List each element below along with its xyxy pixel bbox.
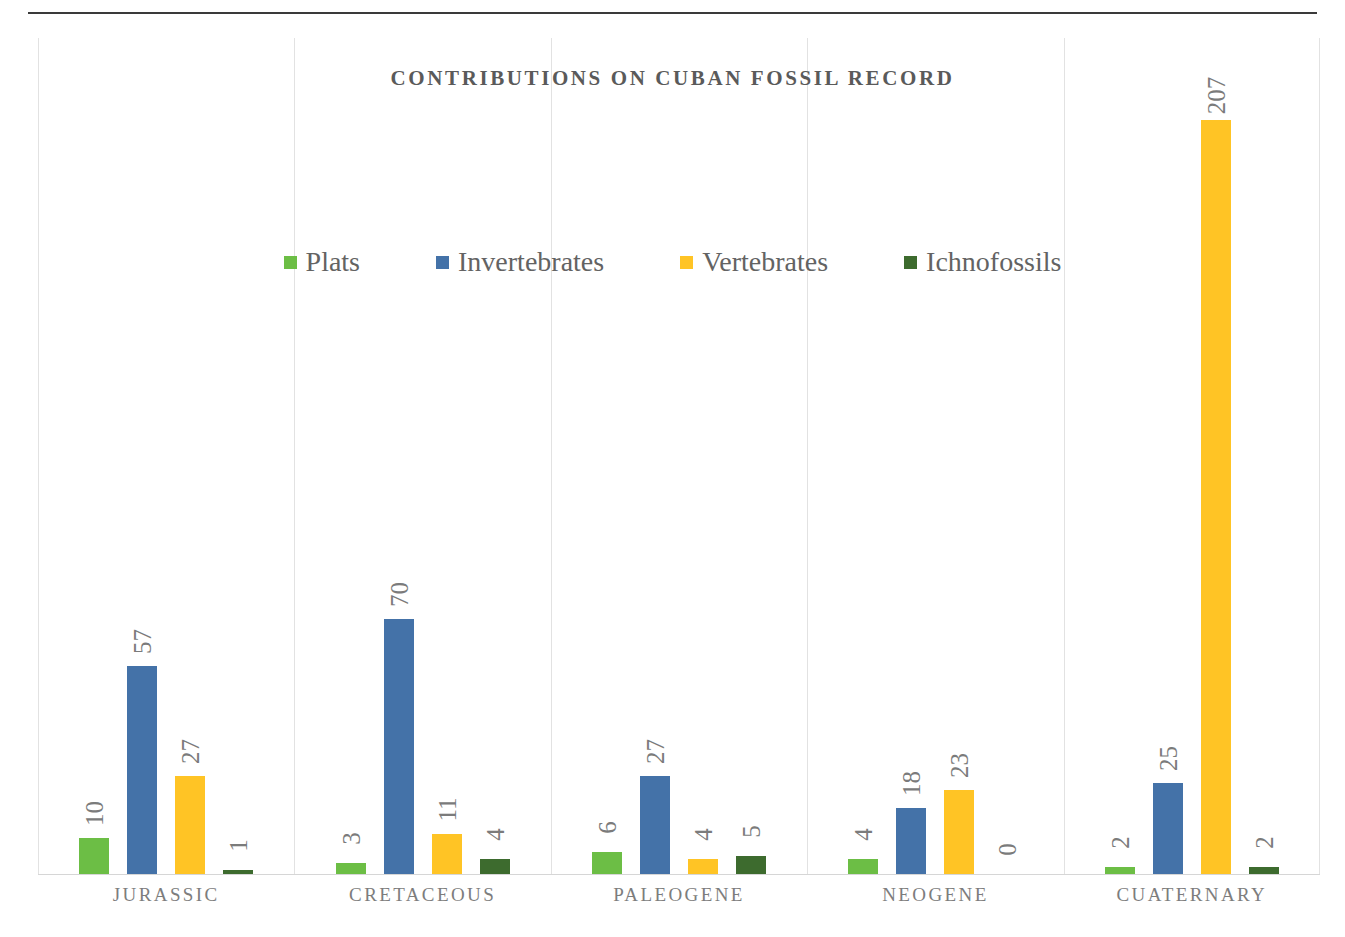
bar-invertebrates-cretaceous[interactable] [384, 619, 414, 874]
bar-slot-invertebrates: 25 [1144, 38, 1192, 874]
bar-slot-vertebrates: 207 [1192, 38, 1240, 874]
chart-figure: CONTRIBUTIONS ON CUBAN FOSSIL RECORD Pla… [0, 0, 1345, 937]
bar-slot-plats: 2 [1096, 38, 1144, 874]
bar-vertebrates-jurassic[interactable] [175, 776, 205, 874]
bar-ichnofossils-cretaceous[interactable] [480, 859, 510, 874]
bar-plats-jurassic[interactable] [79, 838, 109, 874]
bar-plats-neogene[interactable] [848, 859, 878, 874]
bar-group-bars: 62745 [551, 38, 807, 874]
bar-value-label: 4 [691, 828, 716, 841]
bar-invertebrates-paleogene[interactable] [640, 776, 670, 874]
bar-invertebrates-jurassic[interactable] [127, 666, 157, 874]
category-label-cuaternary: CUATERNARY [1064, 884, 1320, 906]
bar-ichnofossils-jurassic[interactable] [223, 870, 253, 874]
bar-slot-vertebrates: 23 [935, 38, 983, 874]
bar-group-jurassic: 1057271 [38, 38, 294, 874]
bar-value-label: 23 [947, 753, 972, 778]
bar-value-label: 5 [739, 825, 764, 838]
bar-value-label: 207 [1203, 77, 1228, 115]
bar-value-label: 18 [899, 771, 924, 796]
bar-group-bars: 370114 [294, 38, 550, 874]
bar-group-cuaternary: 2252072 [1064, 38, 1320, 874]
bar-group-neogene: 418230 [807, 38, 1063, 874]
bar-vertebrates-cretaceous[interactable] [432, 834, 462, 874]
category-label-jurassic: JURASSIC [38, 884, 294, 906]
bar-vertebrates-cuaternary[interactable] [1201, 120, 1231, 874]
bar-slot-ichnofossils: 1 [214, 38, 262, 874]
bar-value-label: 2 [1107, 836, 1132, 849]
bar-value-label: 70 [386, 582, 411, 607]
bar-value-label: 1 [226, 839, 251, 852]
bar-slot-vertebrates: 4 [679, 38, 727, 874]
bar-value-label: 6 [595, 821, 620, 834]
bar-vertebrates-paleogene[interactable] [688, 859, 718, 874]
category-label-paleogene: PALEOGENE [551, 884, 807, 906]
bar-slot-ichnofossils: 5 [727, 38, 775, 874]
bar-vertebrates-neogene[interactable] [944, 790, 974, 874]
bar-slot-plats: 6 [583, 38, 631, 874]
bar-value-label: 57 [130, 629, 155, 654]
bar-slot-ichnofossils: 0 [983, 38, 1031, 874]
bar-value-label: 4 [851, 828, 876, 841]
top-horizontal-rule [28, 12, 1317, 14]
category-axis-labels: JURASSICCRETACEOUSPALEOGENENEOGENECUATER… [38, 884, 1320, 906]
bar-plats-paleogene[interactable] [592, 852, 622, 874]
bar-plats-cretaceous[interactable] [336, 863, 366, 874]
bar-value-label: 0 [995, 843, 1020, 856]
bar-slot-ichnofossils: 2 [1240, 38, 1288, 874]
bar-value-label: 4 [482, 828, 507, 841]
bar-slot-invertebrates: 57 [118, 38, 166, 874]
bar-value-label: 11 [434, 797, 459, 821]
bar-invertebrates-neogene[interactable] [896, 808, 926, 874]
bar-value-label: 10 [82, 801, 107, 826]
category-label-neogene: NEOGENE [807, 884, 1063, 906]
bar-invertebrates-cuaternary[interactable] [1153, 783, 1183, 874]
bar-slot-plats: 4 [839, 38, 887, 874]
bar-ichnofossils-cuaternary[interactable] [1249, 867, 1279, 874]
bar-slot-ichnofossils: 4 [471, 38, 519, 874]
bar-value-label: 3 [338, 832, 363, 845]
bar-slot-invertebrates: 70 [375, 38, 423, 874]
category-label-cretaceous: CRETACEOUS [294, 884, 550, 906]
bar-groups: 1057271370114627454182302252072 [38, 38, 1320, 874]
bar-ichnofossils-paleogene[interactable] [736, 856, 766, 874]
bar-group-bars: 1057271 [38, 38, 294, 874]
bar-group-bars: 418230 [807, 38, 1063, 874]
bar-slot-invertebrates: 18 [887, 38, 935, 874]
bar-group-paleogene: 62745 [551, 38, 807, 874]
bar-value-label: 2 [1251, 836, 1276, 849]
bar-slot-invertebrates: 27 [631, 38, 679, 874]
bar-value-label: 27 [643, 739, 668, 764]
bar-group-cretaceous: 370114 [294, 38, 550, 874]
bar-slot-plats: 3 [327, 38, 375, 874]
bar-value-label: 25 [1155, 746, 1180, 771]
bar-slot-plats: 10 [70, 38, 118, 874]
bar-slot-vertebrates: 11 [423, 38, 471, 874]
x-axis-line [38, 874, 1320, 875]
bar-slot-vertebrates: 27 [166, 38, 214, 874]
bar-group-bars: 2252072 [1064, 38, 1320, 874]
bar-value-label: 27 [178, 739, 203, 764]
bar-plats-cuaternary[interactable] [1105, 867, 1135, 874]
